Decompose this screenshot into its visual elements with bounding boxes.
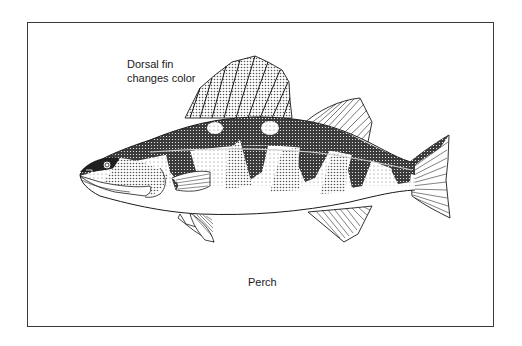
perch-illustration xyxy=(0,0,522,346)
caudal-fin xyxy=(410,135,450,218)
dorsal-fin xyxy=(185,56,292,118)
anal-fin xyxy=(308,206,372,242)
pelvic-fin xyxy=(178,214,214,242)
figure-caption: Perch xyxy=(248,276,277,288)
